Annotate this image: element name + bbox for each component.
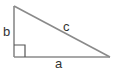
label-a: a [55,56,63,70]
label-b: b [3,24,10,39]
label-c: c [63,19,70,34]
triangle [14,6,110,57]
side-c-hypotenuse-line [14,6,110,57]
right-triangle-diagram: b c a [0,0,116,70]
right-angle-marker [14,45,25,57]
